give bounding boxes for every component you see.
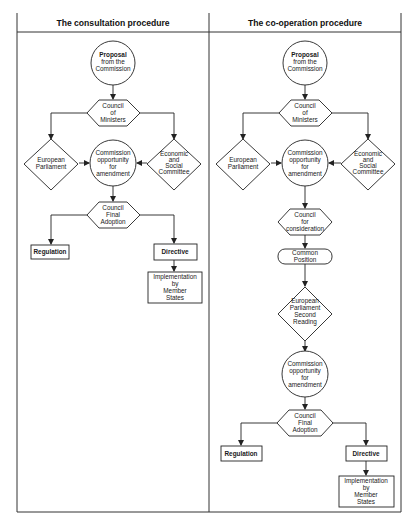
svg-text:Position: Position bbox=[294, 256, 317, 263]
node-directive: Directive bbox=[346, 446, 387, 461]
svg-text:Member: Member bbox=[354, 491, 378, 498]
svg-text:Council: Council bbox=[102, 102, 123, 109]
svg-text:Council: Council bbox=[294, 102, 315, 109]
node-regulation: Regulation bbox=[31, 245, 69, 259]
node-directive: Directive bbox=[154, 244, 197, 260]
diagram-frame bbox=[17, 13, 401, 512]
svg-text:Parliament: Parliament bbox=[36, 163, 67, 170]
svg-text:Directive: Directive bbox=[353, 450, 380, 457]
node-ep-second-reading: European Parliament Second Reading bbox=[278, 287, 332, 341]
svg-text:States: States bbox=[357, 498, 375, 505]
svg-text:of: of bbox=[110, 109, 116, 116]
svg-text:Ministers: Ministers bbox=[100, 116, 126, 123]
svg-text:Committee: Committee bbox=[159, 168, 190, 175]
panel-title-consultation: The consultation procedure bbox=[56, 18, 169, 28]
node-proposal: Proposal from the Commission bbox=[91, 41, 135, 85]
node-economic-social-committee: Economic and Social Committee bbox=[341, 139, 395, 190]
node-european-parliament: European Parliament bbox=[216, 139, 270, 190]
svg-text:Council: Council bbox=[294, 211, 315, 218]
svg-text:Final: Final bbox=[298, 419, 312, 426]
svg-text:Adoption: Adoption bbox=[100, 218, 126, 226]
svg-text:Member: Member bbox=[163, 287, 187, 294]
panel-title-cooperation: The co-operation procedure bbox=[248, 18, 362, 28]
svg-text:Final: Final bbox=[106, 211, 120, 218]
node-regulation: Regulation bbox=[221, 446, 262, 461]
svg-text:Regulation: Regulation bbox=[33, 248, 66, 256]
procedure-diagram: The consultation procedure The co-operat… bbox=[0, 0, 416, 529]
node-council-final-adoption: Council Final Adoption bbox=[277, 410, 333, 436]
svg-text:Commission: Commission bbox=[287, 149, 323, 156]
svg-text:for: for bbox=[301, 163, 309, 170]
svg-text:Commission: Commission bbox=[95, 65, 131, 72]
node-economic-social-committee: Economic and Social Committee bbox=[147, 139, 201, 190]
node-implementation: Implementation by Member States bbox=[339, 476, 394, 507]
svg-text:Second: Second bbox=[294, 311, 316, 318]
svg-text:Council: Council bbox=[102, 204, 123, 211]
node-european-parliament: European Parliament bbox=[24, 139, 78, 190]
node-common-position: Common Position bbox=[278, 249, 332, 264]
cooperation-panel: Proposal from the Commission Council of … bbox=[216, 41, 395, 507]
svg-text:Regulation: Regulation bbox=[224, 450, 257, 458]
svg-text:States: States bbox=[166, 294, 184, 301]
svg-text:Common: Common bbox=[292, 249, 318, 256]
svg-text:Parliament: Parliament bbox=[228, 163, 259, 170]
svg-text:for: for bbox=[109, 163, 117, 170]
svg-text:consideration: consideration bbox=[286, 225, 324, 232]
consultation-panel: Proposal from the Commission Council of … bbox=[24, 41, 202, 303]
svg-text:Council: Council bbox=[294, 412, 315, 419]
svg-text:Parliament: Parliament bbox=[290, 304, 321, 311]
node-council-final-adoption: Council Final Adoption bbox=[87, 202, 140, 228]
node-commission-amendment: Commission opportunity for amendment bbox=[282, 140, 328, 186]
svg-text:Reading: Reading bbox=[293, 318, 317, 326]
svg-text:Adoption: Adoption bbox=[292, 426, 318, 434]
svg-text:Directive: Directive bbox=[162, 248, 189, 255]
svg-text:for: for bbox=[301, 374, 309, 381]
node-proposal: Proposal from the Commission bbox=[283, 41, 327, 85]
svg-text:Commission: Commission bbox=[95, 149, 131, 156]
svg-text:Commission: Commission bbox=[287, 360, 323, 367]
node-implementation: Implementation by Member States bbox=[148, 272, 202, 303]
svg-text:from the: from the bbox=[101, 58, 125, 65]
svg-text:for: for bbox=[301, 218, 309, 225]
svg-text:Committee: Committee bbox=[353, 168, 384, 175]
svg-text:Ministers: Ministers bbox=[292, 116, 318, 123]
svg-text:amendment: amendment bbox=[288, 170, 322, 177]
svg-text:amendment: amendment bbox=[288, 381, 322, 388]
node-council-of-ministers: Council of Ministers bbox=[87, 100, 140, 126]
svg-text:from the: from the bbox=[293, 58, 317, 65]
node-commission-amendment-2: Commission opportunity for amendment bbox=[282, 351, 328, 397]
node-council-for-consideration: Council for consideration bbox=[278, 209, 332, 235]
svg-text:amendment: amendment bbox=[96, 170, 130, 177]
node-commission-amendment: Commission opportunity for amendment bbox=[90, 140, 136, 186]
node-council-of-ministers: Council of Ministers bbox=[279, 100, 332, 126]
svg-text:Commission: Commission bbox=[287, 65, 323, 72]
svg-text:of: of bbox=[302, 109, 308, 116]
